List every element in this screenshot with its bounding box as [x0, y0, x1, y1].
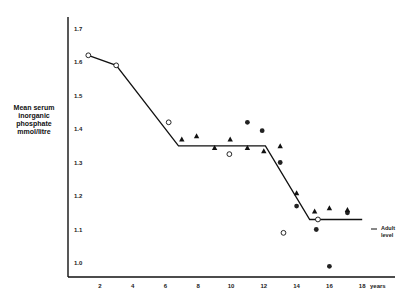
adult-level-label: level: [381, 232, 394, 238]
y-tick-label: 1.5: [74, 93, 83, 99]
annotations: Adultlevel: [371, 225, 395, 238]
y-tick-label: 1.4: [74, 126, 83, 132]
filled-circle-marker: [294, 204, 299, 209]
filled-circle-marker: [327, 264, 332, 269]
filled-circle-marker: [260, 128, 265, 133]
x-axis-ticks: 24681012141618: [98, 283, 366, 289]
triangle-marker: [327, 205, 332, 210]
triangle-marker: [179, 137, 184, 142]
y-axis-ticks: 1.01.11.21.31.41.51.61.7: [74, 26, 83, 267]
filled-circle-marker: [314, 227, 319, 232]
open-circle-marker: [86, 53, 91, 58]
open-circle-marker: [114, 63, 119, 68]
triangle-marker: [345, 207, 350, 212]
triangle-marker: [261, 148, 266, 153]
x-tick-label: 16: [326, 283, 333, 289]
x-axis-label: years: [370, 283, 386, 289]
x-tick-label: 6: [164, 283, 168, 289]
filled-circle-marker: [278, 160, 283, 165]
x-tick-label: 10: [228, 283, 235, 289]
x-tick-label: 18: [359, 283, 366, 289]
y-tick-label: 1.1: [74, 227, 83, 233]
triangle-marker: [294, 190, 299, 195]
filled-circle-marker: [245, 120, 250, 125]
phosphate-chart: 1.01.11.21.31.41.51.61.7 24681012141618 …: [0, 0, 413, 299]
data-points: [86, 53, 350, 269]
y-tick-label: 1.2: [74, 193, 83, 199]
open-circle-marker: [227, 152, 232, 157]
y-tick-label: 1.0: [74, 260, 83, 266]
axes: [68, 17, 395, 277]
x-tick-label: 2: [98, 283, 102, 289]
x-tick-label: 12: [260, 283, 267, 289]
triangle-marker: [278, 143, 283, 148]
y-tick-label: 1.7: [74, 26, 83, 32]
triangle-marker: [227, 137, 232, 142]
open-circle-marker: [316, 217, 321, 222]
triangle-marker: [312, 209, 317, 214]
x-tick-label: 14: [293, 283, 300, 289]
trend-line: [88, 55, 362, 219]
y-tick-label: 1.3: [74, 160, 83, 166]
triangle-marker: [194, 133, 199, 138]
x-tick-label: 8: [197, 283, 201, 289]
open-circle-marker: [281, 230, 286, 235]
adult-level-label: Adult: [381, 225, 395, 231]
open-circle-marker: [166, 120, 171, 125]
y-tick-label: 1.6: [74, 59, 83, 65]
x-tick-label: 4: [131, 283, 135, 289]
